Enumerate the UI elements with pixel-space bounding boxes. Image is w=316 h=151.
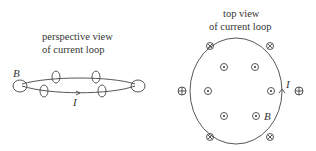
dot-symbol-icon (268, 88, 275, 95)
dot-symbol-icon (205, 88, 212, 95)
field-loop-left-end (13, 80, 27, 92)
perspective-title-line2: of current loop (42, 44, 104, 55)
perspective-view-panel: perspective view of current loop I B (13, 31, 145, 108)
top-title-line1: top view (223, 8, 260, 19)
field-loop-back-1 (52, 71, 60, 83)
loop-back-edge (22, 78, 135, 84)
plus-symbol-icon (178, 87, 186, 95)
current-label-left: I (72, 96, 78, 108)
cross-symbol-icon (267, 134, 274, 141)
field-loop-front-2 (98, 85, 106, 97)
field-label-right: B (264, 110, 271, 122)
plus-symbol-icon (295, 87, 303, 95)
top-view-panel: top view of current loop I B (178, 8, 303, 144)
dot-symbol-icon (253, 113, 260, 120)
field-loop-back-2 (92, 71, 100, 83)
cross-symbol-icon (207, 43, 214, 50)
loop-front-edge (22, 86, 135, 93)
current-label-right: I (285, 78, 291, 90)
dot-symbol-icon (221, 64, 228, 71)
top-title-line2: of current loop (209, 21, 271, 32)
field-loop-right-end (131, 80, 145, 92)
current-loop-circle (190, 38, 282, 144)
dot-symbol-icon (221, 113, 228, 120)
perspective-title-line1: perspective view (42, 31, 113, 42)
dot-symbol-icon (252, 64, 259, 71)
current-loop-diagram: perspective view of current loop I B top… (0, 0, 316, 151)
field-label-left: B (13, 67, 20, 79)
cross-symbol-icon (267, 43, 274, 50)
